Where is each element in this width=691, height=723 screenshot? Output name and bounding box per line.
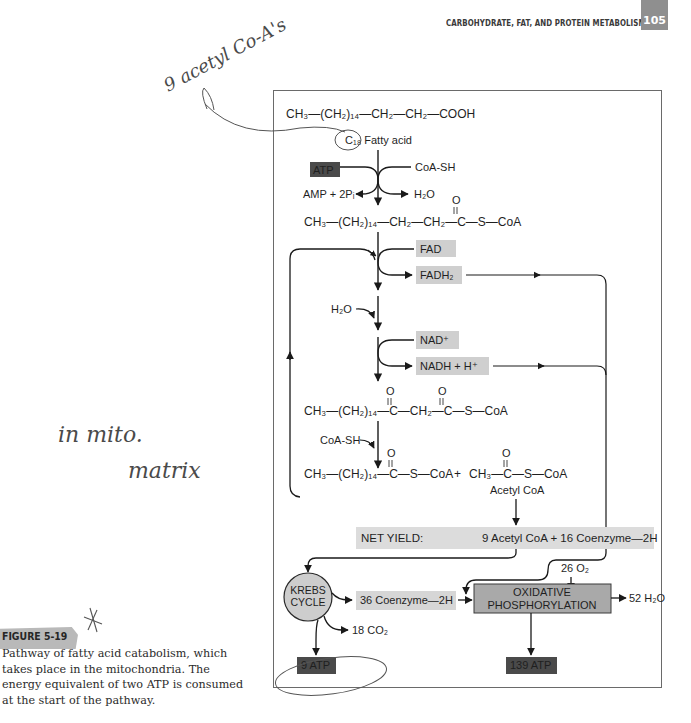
handwritten-asterisk-icon — [84, 608, 102, 632]
water-yield: 52 H₂O — [629, 592, 666, 604]
water-output: H₂O — [414, 188, 435, 200]
oxphos-line-1: OXIDATIVE — [513, 586, 571, 598]
carbonyl-o-4: O — [387, 447, 396, 459]
fad-label: FAD — [420, 243, 441, 255]
handwritten-note-matrix: matrix — [128, 458, 201, 483]
thiolysis-coa-sh: CoA-SH — [320, 434, 360, 446]
carbonyl-o-1: O — [452, 194, 461, 206]
shortened-acyl-coa-formula: CH₃—(CH₂)₁₄—C—S—CoA — [304, 467, 453, 481]
net-yield-value: 9 Acetyl CoA + 16 Coenzyme—2H — [482, 532, 657, 544]
co2-output: 18 CO₂ — [352, 624, 388, 636]
ketoacyl-coa-formula: CH₃—(CH₂)₁₄—C—CH₂—C—S—CoA — [304, 404, 508, 418]
carbonyl-o-3: O — [438, 385, 447, 397]
fadh2-label: FADH₂ — [420, 269, 454, 281]
fatty-acid-label: C₁₈ Fatty acid — [345, 134, 412, 146]
fatty-acid-formula: CH₃—(CH₂)₁₄—CH₂—CH₂—COOH — [286, 107, 475, 121]
oxphos-atp-label: 139 ATP — [510, 659, 551, 671]
acetyl-coa-label: Acetyl CoA — [490, 484, 545, 496]
coa-sh-input: CoA-SH — [415, 161, 455, 173]
carbonyl-o-5: O — [502, 447, 511, 459]
acyl-coa-formula: CH₃—(CH₂)₁₄—CH₂—CH₂—C—S—CoA — [304, 215, 521, 229]
oxphos-line-2: PHOSPHORYLATION — [487, 599, 596, 611]
krebs-line-2: CYCLE — [290, 596, 325, 608]
oxygen-input: 26 O₂ — [561, 562, 589, 574]
nadh-label: NADH + H⁺ — [420, 360, 478, 372]
atp-input-label: ATP — [313, 164, 334, 176]
hydration-water: H₂O — [331, 303, 352, 315]
carbonyl-o-2: O — [386, 385, 395, 397]
plus-sign: + — [454, 467, 461, 481]
amp-output: AMP + 2Pᵢ — [303, 188, 355, 200]
krebs-coenzyme-label: 36 Coenzyme—2H — [360, 594, 453, 606]
handwritten-note-acetyl: 9 acetyl Co-A's — [160, 13, 289, 95]
handwritten-circle-9atp — [273, 650, 389, 701]
acetyl-coa-formula: CH₃—C—S—CoA — [469, 467, 567, 481]
net-yield-label: NET YIELD: — [361, 532, 423, 544]
nad-label: NAD⁺ — [420, 334, 449, 346]
fatty-acid-pathway-diagram: CH₃—(CH₂)₁₄—CH₂—CH₂—COOH C₁₈ Fatty acid … — [0, 0, 691, 723]
handwritten-note-mito: in mito. — [58, 422, 143, 447]
krebs-line-1: KREBS — [290, 584, 326, 596]
